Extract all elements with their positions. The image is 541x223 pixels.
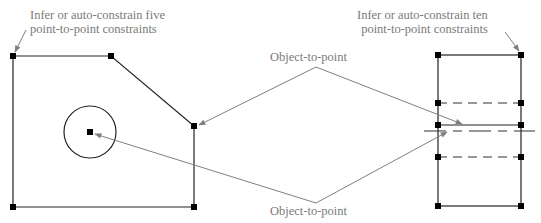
point-marker <box>518 122 524 128</box>
leader-arrow-mid-bot-right <box>316 132 447 203</box>
label-line: point-to-point constraints <box>357 22 488 36</box>
leader-arrow-top-left <box>15 30 26 52</box>
point-marker <box>435 100 441 106</box>
leader-arrow-top-right <box>505 32 519 51</box>
point-marker <box>435 154 441 160</box>
point-marker <box>518 154 524 160</box>
leader-arrow-mid-top-left <box>199 67 316 125</box>
point-marker <box>518 52 524 58</box>
point-marker <box>191 204 197 210</box>
point-marker <box>435 122 441 128</box>
label-line: Infer or auto-constrain five <box>30 8 165 22</box>
label-five-constraints: Infer or auto-constrain five point-to-po… <box>30 8 165 36</box>
left-profile-shape <box>10 53 197 210</box>
label-line: Infer or auto-constrain ten <box>357 8 488 22</box>
label-ten-constraints: Infer or auto-constrain ten point-to-poi… <box>357 8 488 36</box>
left-polygon <box>13 56 194 207</box>
leader-arrow-mid-top-right <box>316 67 462 124</box>
point-marker <box>435 52 441 58</box>
point-marker <box>108 53 114 59</box>
label-line: point-to-point constraints <box>30 22 165 36</box>
point-marker <box>518 100 524 106</box>
point-marker <box>191 123 197 129</box>
point-marker <box>10 53 16 59</box>
label-object-to-point-bottom: Object-to-point <box>270 204 347 218</box>
point-marker <box>435 203 441 209</box>
circle-center-point <box>87 129 93 135</box>
label-object-to-point-top: Object-to-point <box>270 50 347 64</box>
leader-arrow-mid-bot-left <box>95 134 316 203</box>
right-profile-shape <box>424 52 535 209</box>
point-marker <box>10 204 16 210</box>
point-marker <box>518 203 524 209</box>
